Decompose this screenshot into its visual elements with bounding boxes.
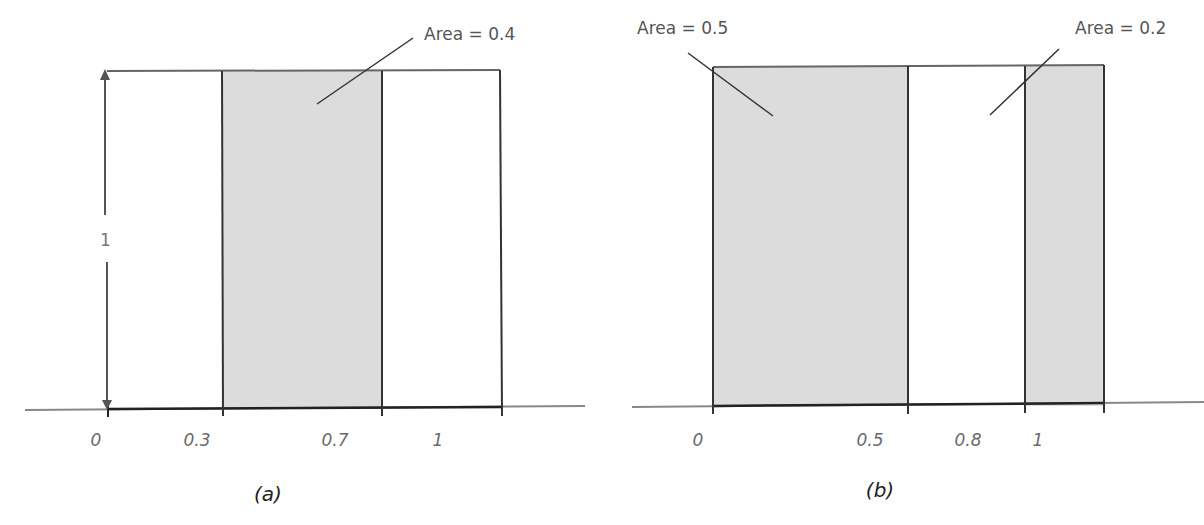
panel-a xyxy=(25,38,585,417)
tick-label: 0 xyxy=(91,430,102,450)
height-label: 1 xyxy=(100,230,111,250)
tick-label: 1 xyxy=(1033,430,1044,450)
tick-label: 1 xyxy=(433,430,444,450)
panel-b xyxy=(632,49,1204,414)
tick-label: 0.7 xyxy=(321,430,348,450)
tick-label: 0.5 xyxy=(856,430,883,450)
shaded-region-b1 xyxy=(713,67,908,406)
shaded-region-b2 xyxy=(1025,66,1104,406)
tick-label: 0.3 xyxy=(183,430,210,450)
shaded-region-a xyxy=(222,71,382,409)
tick-label: 0 xyxy=(693,430,704,450)
area-annotation: Area = 0.4 xyxy=(424,24,515,44)
panel-caption: (b) xyxy=(866,478,894,502)
diagram-canvas xyxy=(0,0,1204,525)
area-annotation: Area = 0.5 xyxy=(637,18,728,38)
area-annotation: Area = 0.2 xyxy=(1075,18,1166,38)
tick-label: 0.8 xyxy=(954,430,981,450)
panel-caption: (a) xyxy=(254,482,282,506)
